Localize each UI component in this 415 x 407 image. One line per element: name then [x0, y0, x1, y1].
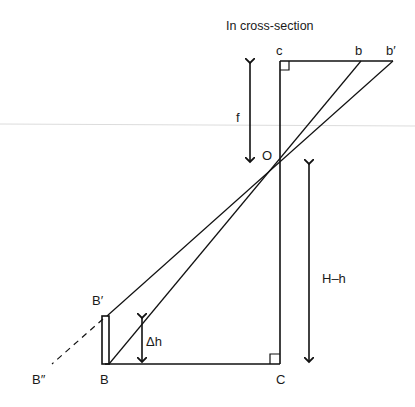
right-angle-c-icon — [280, 61, 289, 70]
object-bar — [102, 316, 109, 364]
label-b: b — [355, 43, 362, 58]
label-delta-h: Δh — [146, 334, 162, 349]
label-c: c — [276, 43, 283, 58]
dashed-extension-Bdoubleprime — [52, 319, 103, 364]
label-H-minus-h: H–h — [322, 271, 346, 286]
label-b-prime: b′ — [386, 43, 396, 58]
label-B: B — [100, 372, 109, 387]
ray-b-B — [109, 61, 361, 364]
scan-artifact-line — [0, 124, 415, 126]
cross-section-diagram: In cross-section c b b′ O f H–h B′ Δh B″… — [0, 0, 415, 407]
diagram-title: In cross-section — [226, 19, 314, 33]
label-B-double-prime: B″ — [32, 372, 46, 387]
label-B-prime: B′ — [92, 293, 104, 308]
label-O: O — [262, 148, 272, 163]
right-angle-C-icon — [270, 354, 280, 364]
label-C: C — [276, 372, 285, 387]
label-f: f — [236, 110, 240, 125]
